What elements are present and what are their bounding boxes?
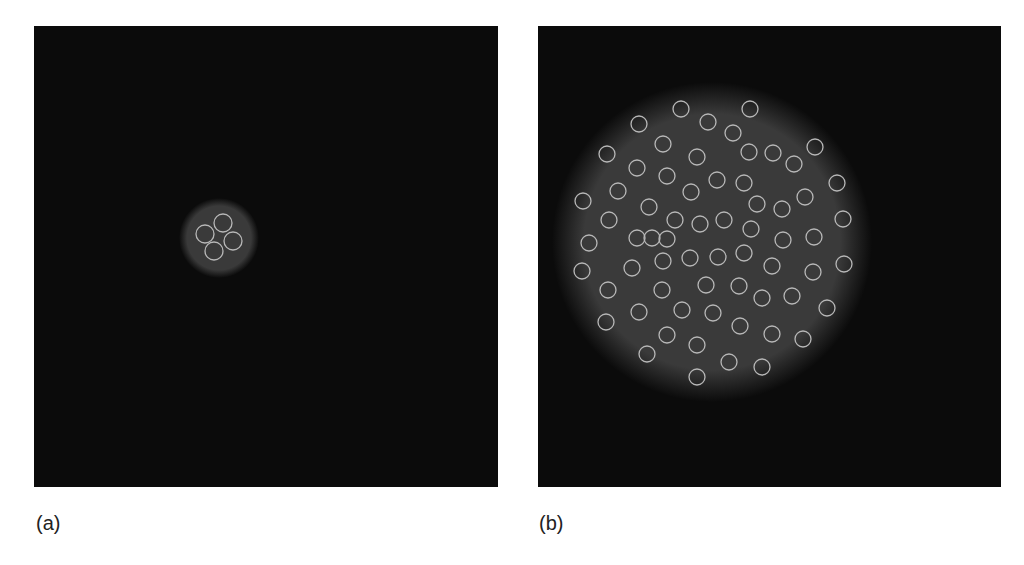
panel-a — [34, 26, 498, 487]
panel-a-image — [34, 26, 498, 487]
panel-b-image — [538, 26, 1001, 487]
particle-blob — [552, 82, 872, 402]
panel-a-label: (a) — [36, 512, 60, 535]
panel-b-label: (b) — [539, 512, 563, 535]
panel-b — [538, 26, 1001, 487]
particle-blob — [179, 198, 259, 278]
